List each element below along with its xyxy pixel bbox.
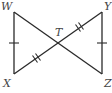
geometry-diagram: W Y X Z T: [0, 0, 112, 93]
label-y: Y: [104, 0, 112, 13]
label-t: T: [55, 26, 64, 39]
label-z: Z: [103, 77, 112, 90]
label-x: X: [2, 77, 12, 90]
label-w: W: [1, 0, 14, 13]
